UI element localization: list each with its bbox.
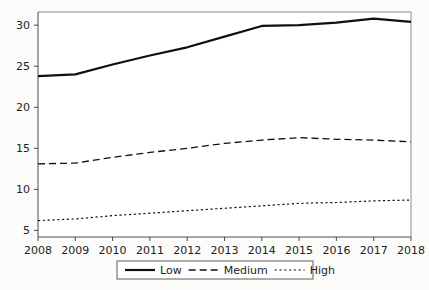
legend-label-low: Low: [160, 264, 182, 277]
legend-label-high: High: [310, 264, 335, 277]
x-tick-label: 2011: [136, 244, 164, 257]
plot-area: [38, 12, 411, 237]
x-tick-label: 2013: [211, 244, 239, 257]
x-tick-label: 2017: [360, 244, 388, 257]
y-axis-ticks: 51015202530: [16, 19, 38, 237]
x-tick-label: 2008: [24, 244, 52, 257]
y-tick-label: 15: [16, 142, 30, 155]
x-tick-label: 2016: [322, 244, 350, 257]
line-chart: 51015202530 2008200920102011201220132014…: [0, 0, 429, 290]
plot-background: [38, 12, 411, 237]
chart-container: 51015202530 2008200920102011201220132014…: [0, 0, 429, 290]
x-tick-label: 2012: [173, 244, 201, 257]
x-tick-label: 2018: [397, 244, 425, 257]
x-axis-ticks: 2008200920102011201220132014201520162017…: [24, 237, 425, 257]
y-tick-label: 20: [16, 101, 30, 114]
y-tick-label: 5: [23, 224, 30, 237]
x-tick-label: 2010: [99, 244, 127, 257]
y-tick-label: 25: [16, 60, 30, 73]
x-tick-label: 2015: [285, 244, 313, 257]
x-tick-label: 2014: [248, 244, 276, 257]
chart-legend[interactable]: LowMediumHigh: [117, 261, 335, 279]
y-tick-label: 30: [16, 19, 30, 32]
y-tick-label: 10: [16, 183, 30, 196]
legend-label-medium: Medium: [224, 264, 268, 277]
x-tick-label: 2009: [61, 244, 89, 257]
